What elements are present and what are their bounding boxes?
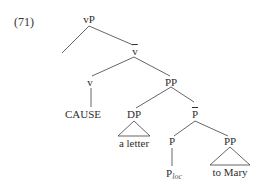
branch-vP-empty: [62, 26, 89, 53]
node-v-bar: v: [132, 46, 138, 57]
tree-branches: [0, 0, 265, 192]
node-PP-top: PP: [165, 77, 177, 88]
triangle-PP: [210, 147, 250, 165]
branch-vbar-v: [92, 57, 134, 76]
leaf-a-letter: a letter: [119, 138, 149, 149]
branch-PP-Pbar: [171, 87, 194, 102]
node-PP-low: PP: [224, 136, 236, 147]
triangle-DP: [118, 121, 150, 136]
P-loc-subscript: loc: [172, 172, 182, 181]
branch-vbar-PP: [134, 57, 170, 76]
node-DP: DP: [127, 109, 141, 120]
branch-vP-vbar: [89, 26, 133, 45]
branch-Pbar-P: [174, 121, 195, 136]
syntax-tree: (71) vP v v PP CAUSE DP a letter P P PP …: [0, 0, 265, 192]
node-P: P: [169, 136, 175, 147]
branch-Pbar-PP: [195, 121, 228, 136]
leaf-to-Mary: to Mary: [212, 167, 247, 178]
branch-PP-DP: [136, 87, 171, 108]
example-number: (71): [14, 16, 34, 28]
node-v: v: [87, 77, 93, 88]
node-vP: vP: [83, 14, 95, 25]
leaf-P-loc: Ploc: [166, 168, 182, 180]
node-P-bar: P: [192, 109, 198, 120]
node-CAUSE: CAUSE: [65, 109, 101, 120]
